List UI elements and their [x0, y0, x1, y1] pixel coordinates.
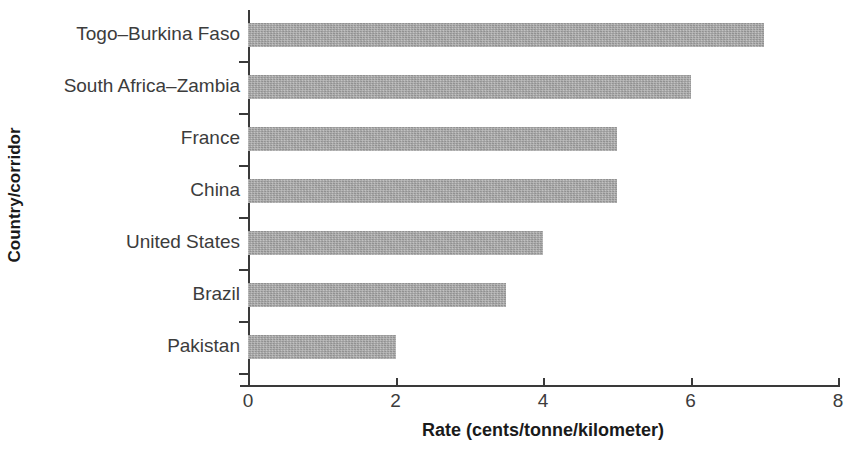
x-axis-tick-label: 8 [818, 390, 858, 412]
x-axis-tick-label: 2 [376, 390, 416, 412]
bar [248, 127, 617, 151]
bar [248, 335, 396, 359]
bar [248, 231, 543, 255]
y-axis-tick [239, 321, 249, 323]
bar [248, 283, 506, 307]
y-axis-tick-label: South Africa–Zambia [0, 75, 240, 97]
y-axis-tick-label: Pakistan [0, 335, 240, 357]
y-axis-tick-label: China [0, 179, 240, 201]
x-axis-tick [838, 378, 840, 387]
y-axis-tick-label: France [0, 127, 240, 149]
x-axis-tick-label: 0 [228, 390, 268, 412]
bar [248, 75, 691, 99]
bar-chart: Country/corridor Togo–Burkina FasoSouth … [0, 0, 859, 455]
x-axis-line [240, 385, 839, 387]
bar [248, 23, 764, 47]
y-axis-tick-label: Brazil [0, 283, 240, 305]
x-axis-title: Rate (cents/tonne/kilometer) [248, 420, 838, 441]
y-axis-tick [239, 373, 249, 375]
y-axis-tick [239, 165, 249, 167]
y-axis-tick [239, 61, 249, 63]
x-axis-tick-label: 4 [523, 390, 563, 412]
bar [248, 179, 617, 203]
x-axis-tick [691, 378, 693, 387]
y-axis-tick [239, 217, 249, 219]
y-axis-tick-label: United States [0, 231, 240, 253]
y-axis-tick [239, 113, 249, 115]
x-axis-tick [543, 378, 545, 387]
x-axis-tick [248, 378, 250, 387]
y-axis-tick [239, 269, 249, 271]
x-axis-tick [396, 378, 398, 387]
y-axis-tick-label: Togo–Burkina Faso [0, 23, 240, 45]
x-axis-tick-label: 6 [671, 390, 711, 412]
